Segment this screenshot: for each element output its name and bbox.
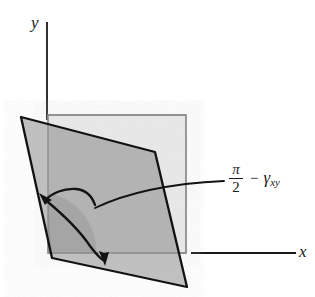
y-axis-label: y xyxy=(31,14,39,31)
gamma-subscript: xy xyxy=(270,176,280,188)
pi-symbol: π xyxy=(229,162,243,178)
gamma-term: γxy xyxy=(263,169,279,188)
shear-strain-diagram xyxy=(0,0,315,297)
pi-over-two-fraction: π 2 xyxy=(229,162,243,195)
angle-annotation-label: π 2 − γxy xyxy=(228,162,280,195)
fraction-denominator: 2 xyxy=(229,179,243,195)
figure-root: y x π 2 − γxy xyxy=(0,0,315,297)
minus-sign: − xyxy=(250,171,258,186)
x-axis-label: x xyxy=(299,243,307,260)
